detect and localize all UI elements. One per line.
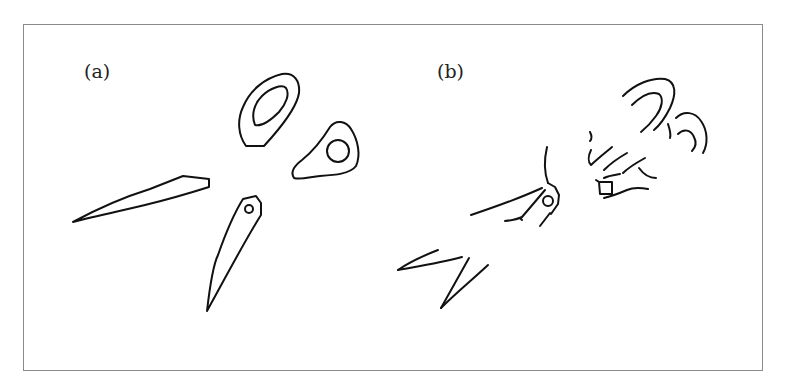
blade-lower-right-2-icon <box>441 265 488 308</box>
ring-handle-small-hole-icon <box>327 140 349 162</box>
panel-a-scissors <box>73 74 358 311</box>
blade-upper-stroke-4-icon <box>540 213 550 226</box>
handle-fragment-6-icon <box>639 168 656 178</box>
handle-joint-icon <box>596 180 648 198</box>
blade-lower-right-1-icon <box>441 258 469 308</box>
blade-upper-stroke-3-icon <box>520 218 522 220</box>
handle-fragment-1-icon <box>590 132 592 141</box>
handle-small-arc-tail-icon <box>668 124 670 138</box>
ring-handle-large-outer-icon <box>239 74 299 146</box>
pivot-hole-b-icon <box>543 196 553 206</box>
handle-arc-outer-icon <box>623 79 674 130</box>
ring-handle-large-inner-icon <box>253 86 287 125</box>
handle-fragment-2-icon <box>589 147 612 165</box>
panel-b-scissors <box>398 79 707 308</box>
blade-lower-icon <box>207 196 261 311</box>
pivot-body-icon <box>548 183 559 214</box>
pivot-upper-line-icon <box>545 147 548 183</box>
scissors-drawings <box>0 0 787 387</box>
blade-left-icon <box>73 176 209 222</box>
handle-small-arc-inner-icon <box>678 130 695 151</box>
handle-fragment-3-icon <box>604 153 627 170</box>
handle-fragment-4-icon <box>604 174 620 178</box>
blade-upper-stroke-1-icon <box>471 188 542 215</box>
pivot-hole-icon <box>245 205 253 213</box>
